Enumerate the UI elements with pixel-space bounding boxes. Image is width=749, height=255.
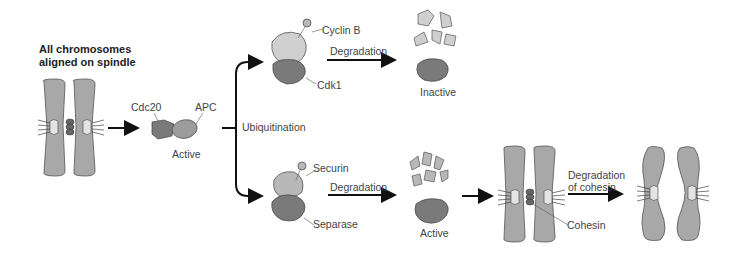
label-cdc20: Cdc20 bbox=[131, 101, 161, 113]
title-line-2: aligned on spindle bbox=[39, 56, 136, 69]
label-degradation-bottom: Degradation bbox=[330, 181, 387, 193]
diagram-graphics bbox=[0, 0, 749, 255]
diagram-title: All chromosomes aligned on spindle bbox=[39, 43, 136, 69]
degraded-cyclin-fragments bbox=[414, 10, 456, 46]
label-active-separase: Active bbox=[420, 227, 449, 239]
label-degradation-top: Degradation bbox=[330, 45, 387, 57]
inactive-cdk1 bbox=[417, 59, 448, 82]
label-degradation-of-cohesin: Degradation of cohesin bbox=[568, 169, 625, 193]
cyclin-b-cdk1-complex bbox=[272, 19, 311, 84]
degradation-line-1: Degradation bbox=[568, 169, 625, 181]
securin-separase-complex bbox=[272, 162, 306, 221]
label-cohesin: Cohesin bbox=[567, 219, 606, 231]
apc-cdc20-complex bbox=[152, 120, 197, 139]
active-separase bbox=[415, 199, 448, 223]
label-ubiquitination: Ubiquitination bbox=[242, 121, 306, 133]
label-securin: Securin bbox=[313, 162, 349, 174]
degraded-securin-fragments bbox=[410, 152, 448, 186]
label-separase: Separase bbox=[313, 218, 358, 230]
label-inactive: Inactive bbox=[420, 86, 456, 98]
degradation-line-2: of cohesin bbox=[568, 181, 625, 193]
title-line-1: All chromosomes bbox=[39, 43, 136, 56]
label-cdk1: Cdk1 bbox=[317, 79, 342, 91]
label-apc-active: Active bbox=[172, 148, 201, 160]
label-cyclin-b: Cyclin B bbox=[322, 24, 361, 36]
diagram: All chromosomes aligned on spindle Cdc20… bbox=[0, 0, 749, 255]
label-apc: APC bbox=[195, 101, 217, 113]
